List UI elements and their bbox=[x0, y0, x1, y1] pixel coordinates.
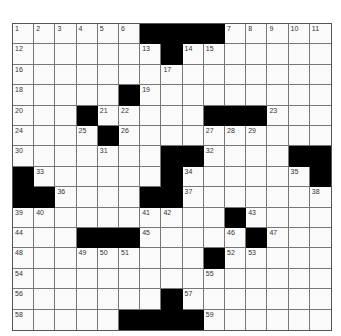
grid-cell[interactable]: 32 bbox=[204, 146, 225, 166]
grid-cell[interactable] bbox=[55, 106, 76, 126]
grid-cell[interactable] bbox=[161, 269, 182, 289]
grid-cell[interactable] bbox=[183, 248, 204, 268]
grid-cell[interactable]: 33 bbox=[34, 167, 55, 187]
grid-cell[interactable]: 23 bbox=[267, 106, 288, 126]
grid-cell[interactable] bbox=[77, 269, 98, 289]
grid-cell[interactable] bbox=[204, 187, 225, 207]
grid-cell[interactable] bbox=[183, 126, 204, 146]
grid-cell[interactable] bbox=[183, 85, 204, 105]
grid-cell[interactable] bbox=[98, 208, 119, 228]
grid-cell[interactable]: 54 bbox=[13, 269, 34, 289]
grid-cell[interactable] bbox=[77, 208, 98, 228]
grid-cell[interactable]: 24 bbox=[13, 126, 34, 146]
grid-cell[interactable] bbox=[289, 208, 310, 228]
grid-cell[interactable]: 38 bbox=[310, 187, 331, 207]
grid-cell[interactable] bbox=[246, 289, 267, 309]
grid-cell[interactable] bbox=[267, 126, 288, 146]
grid-cell[interactable] bbox=[55, 126, 76, 146]
grid-cell[interactable] bbox=[55, 85, 76, 105]
grid-cell[interactable] bbox=[225, 65, 246, 85]
grid-cell[interactable]: 59 bbox=[204, 310, 225, 330]
grid-cell[interactable] bbox=[34, 106, 55, 126]
grid-cell[interactable]: 12 bbox=[13, 44, 34, 64]
grid-cell[interactable] bbox=[225, 269, 246, 289]
grid-cell[interactable] bbox=[267, 289, 288, 309]
grid-cell[interactable] bbox=[289, 187, 310, 207]
grid-cell[interactable] bbox=[289, 248, 310, 268]
grid-cell[interactable] bbox=[55, 167, 76, 187]
grid-cell[interactable] bbox=[310, 289, 331, 309]
grid-cell[interactable] bbox=[34, 289, 55, 309]
grid-cell[interactable]: 50 bbox=[98, 248, 119, 268]
grid-cell[interactable] bbox=[34, 65, 55, 85]
grid-cell[interactable] bbox=[267, 167, 288, 187]
grid-cell[interactable] bbox=[310, 248, 331, 268]
grid-cell[interactable] bbox=[161, 85, 182, 105]
grid-cell[interactable]: 42 bbox=[161, 208, 182, 228]
grid-cell[interactable]: 55 bbox=[204, 269, 225, 289]
grid-cell[interactable]: 37 bbox=[183, 187, 204, 207]
grid-cell[interactable]: 29 bbox=[246, 126, 267, 146]
grid-cell[interactable] bbox=[267, 208, 288, 228]
grid-cell[interactable] bbox=[204, 85, 225, 105]
grid-cell[interactable]: 19 bbox=[140, 85, 161, 105]
grid-cell[interactable]: 22 bbox=[119, 106, 140, 126]
grid-cell[interactable] bbox=[119, 208, 140, 228]
grid-cell[interactable]: 8 bbox=[246, 24, 267, 44]
grid-cell[interactable] bbox=[55, 269, 76, 289]
grid-cell[interactable] bbox=[267, 44, 288, 64]
grid-cell[interactable] bbox=[119, 146, 140, 166]
grid-cell[interactable]: 44 bbox=[13, 228, 34, 248]
grid-cell[interactable]: 18 bbox=[13, 85, 34, 105]
grid-cell[interactable] bbox=[34, 228, 55, 248]
grid-cell[interactable] bbox=[246, 85, 267, 105]
grid-cell[interactable] bbox=[34, 248, 55, 268]
grid-cell[interactable] bbox=[55, 146, 76, 166]
grid-cell[interactable] bbox=[246, 65, 267, 85]
grid-cell[interactable]: 56 bbox=[13, 289, 34, 309]
grid-cell[interactable]: 27 bbox=[204, 126, 225, 146]
grid-cell[interactable] bbox=[204, 289, 225, 309]
grid-cell[interactable]: 14 bbox=[183, 44, 204, 64]
grid-cell[interactable]: 21 bbox=[98, 106, 119, 126]
grid-cell[interactable]: 31 bbox=[98, 146, 119, 166]
grid-cell[interactable] bbox=[204, 65, 225, 85]
grid-cell[interactable]: 2 bbox=[34, 24, 55, 44]
grid-cell[interactable]: 13 bbox=[140, 44, 161, 64]
grid-cell[interactable] bbox=[225, 85, 246, 105]
grid-cell[interactable] bbox=[161, 228, 182, 248]
grid-cell[interactable] bbox=[246, 167, 267, 187]
grid-cell[interactable] bbox=[140, 106, 161, 126]
grid-cell[interactable] bbox=[55, 44, 76, 64]
grid-cell[interactable]: 3 bbox=[55, 24, 76, 44]
grid-cell[interactable]: 9 bbox=[267, 24, 288, 44]
grid-cell[interactable] bbox=[34, 126, 55, 146]
grid-cell[interactable]: 47 bbox=[267, 228, 288, 248]
grid-cell[interactable] bbox=[140, 269, 161, 289]
grid-cell[interactable]: 20 bbox=[13, 106, 34, 126]
grid-cell[interactable] bbox=[98, 65, 119, 85]
grid-cell[interactable] bbox=[204, 167, 225, 187]
grid-cell[interactable] bbox=[310, 310, 331, 330]
grid-cell[interactable] bbox=[77, 146, 98, 166]
grid-cell[interactable]: 41 bbox=[140, 208, 161, 228]
grid-cell[interactable] bbox=[310, 65, 331, 85]
grid-cell[interactable] bbox=[140, 248, 161, 268]
grid-cell[interactable] bbox=[267, 146, 288, 166]
grid-cell[interactable] bbox=[310, 126, 331, 146]
grid-cell[interactable] bbox=[98, 44, 119, 64]
grid-cell[interactable] bbox=[246, 44, 267, 64]
grid-cell[interactable] bbox=[34, 85, 55, 105]
grid-cell[interactable] bbox=[267, 187, 288, 207]
grid-cell[interactable] bbox=[55, 248, 76, 268]
grid-cell[interactable] bbox=[77, 289, 98, 309]
grid-cell[interactable] bbox=[225, 187, 246, 207]
grid-cell[interactable]: 5 bbox=[98, 24, 119, 44]
grid-cell[interactable]: 51 bbox=[119, 248, 140, 268]
grid-cell[interactable] bbox=[289, 65, 310, 85]
grid-cell[interactable] bbox=[161, 126, 182, 146]
grid-cell[interactable] bbox=[98, 289, 119, 309]
grid-cell[interactable]: 30 bbox=[13, 146, 34, 166]
grid-cell[interactable] bbox=[34, 269, 55, 289]
grid-cell[interactable] bbox=[34, 310, 55, 330]
